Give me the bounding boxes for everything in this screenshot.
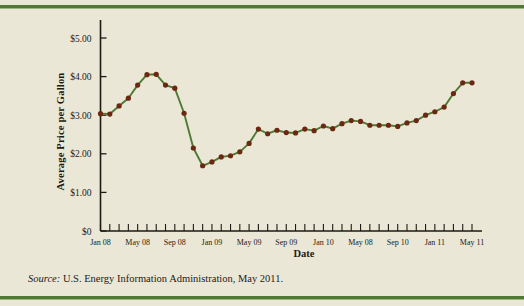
x-axis-tick-marks	[101, 224, 473, 231]
data-point-marker	[339, 121, 344, 126]
data-point-marker	[191, 145, 196, 150]
data-point-marker	[256, 126, 261, 131]
x-tick-label: Sep 08	[164, 238, 186, 247]
data-point-marker	[163, 82, 168, 87]
x-axis-title: Date	[0, 248, 524, 259]
data-point-marker	[414, 118, 419, 123]
data-point-marker	[321, 123, 326, 128]
y-axis-title-text: Average Price per Gallon	[56, 72, 67, 190]
y-axis-title: Average Price per Gallon	[54, 56, 68, 206]
x-tick-label: Jan 10	[313, 238, 334, 247]
data-point-marker	[469, 80, 474, 85]
data-point-marker	[442, 104, 447, 109]
data-point-marker	[247, 141, 252, 146]
data-point-marker	[200, 163, 205, 168]
data-point-marker	[154, 72, 159, 77]
x-tick-label: Jan 11	[425, 238, 445, 247]
data-point-marker	[126, 96, 131, 101]
data-point-marker	[302, 126, 307, 131]
data-point-marker	[395, 124, 400, 129]
data-point-marker	[265, 131, 270, 136]
y-axis-tick-labels: $0$1.00$2.00$3.00$4.00$5.00	[70, 34, 92, 237]
data-point-marker	[460, 80, 465, 85]
figure-container: $0$1.00$2.00$3.00$4.00$5.00 Jan 08May 08…	[0, 0, 524, 306]
y-tick-label: $1.00	[70, 188, 92, 198]
data-point-marker	[404, 120, 409, 125]
data-point-marker	[135, 82, 140, 87]
data-point-marker	[284, 130, 289, 135]
data-point-marker	[330, 126, 335, 131]
data-point-marker	[98, 111, 103, 116]
data-point-marker	[116, 103, 121, 108]
y-tick-label: $5.00	[70, 34, 92, 44]
x-axis-tick-labels: Jan 08May 08Sep 08Jan 09May 09Sep 09Jan …	[90, 238, 484, 247]
x-tick-label: May 09	[237, 238, 262, 247]
data-point-marker	[237, 149, 242, 154]
y-axis-tick-marks	[101, 38, 107, 231]
data-point-marker	[423, 113, 428, 118]
x-tick-label: Jan 08	[90, 238, 111, 247]
data-point-marker	[209, 159, 214, 164]
source-text: U.S. Energy Information Administration, …	[60, 273, 283, 284]
data-point-marker	[451, 91, 456, 96]
plot-area: $0$1.00$2.00$3.00$4.00$5.00 Jan 08May 08…	[0, 10, 524, 265]
data-point-marker	[274, 128, 279, 133]
x-tick-label: May 11	[460, 238, 484, 247]
data-point-marker	[377, 123, 382, 128]
x-axis-title-text: Date	[294, 248, 315, 259]
line-chart: $0$1.00$2.00$3.00$4.00$5.00 Jan 08May 08…	[0, 10, 524, 265]
bottom-rule	[0, 296, 524, 299]
y-tick-label: $3.00	[70, 111, 92, 121]
data-point-marker	[432, 109, 437, 114]
x-tick-label: May 08	[125, 238, 150, 247]
data-point-marker	[367, 123, 372, 128]
source-note: Source: U.S. Energy Information Administ…	[28, 273, 283, 284]
x-tick-label: May 08	[348, 238, 373, 247]
source-label: Source:	[28, 273, 60, 284]
data-point-marker	[293, 130, 298, 135]
data-point-markers	[98, 72, 475, 169]
data-point-marker	[181, 111, 186, 116]
x-tick-label: Sep 09	[275, 238, 297, 247]
y-tick-label: $0	[82, 227, 92, 237]
y-tick-label: $4.00	[70, 72, 92, 82]
data-point-marker	[107, 111, 112, 116]
data-point-marker	[312, 128, 317, 133]
data-point-marker	[144, 72, 149, 77]
y-tick-label: $2.00	[70, 149, 92, 159]
data-point-marker	[172, 86, 177, 91]
data-point-marker	[349, 118, 354, 123]
data-point-marker	[386, 123, 391, 128]
top-rule	[0, 5, 524, 8]
data-point-marker	[219, 154, 224, 159]
data-point-marker	[358, 119, 363, 124]
data-point-marker	[228, 153, 233, 158]
x-tick-label: Sep 10	[387, 238, 409, 247]
x-tick-label: Jan 09	[202, 238, 223, 247]
